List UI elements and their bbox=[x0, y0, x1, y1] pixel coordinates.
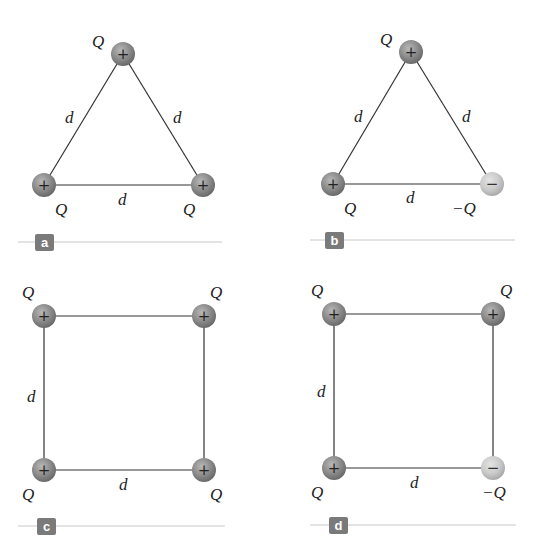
side-left bbox=[333, 52, 411, 184]
charge-label: Q bbox=[22, 485, 34, 504]
positive-charge: + bbox=[399, 40, 423, 64]
positive-charge: + bbox=[192, 458, 216, 482]
charge-label: Q bbox=[380, 30, 392, 49]
charge-label: Q bbox=[183, 200, 195, 219]
charge-label: Q bbox=[311, 483, 323, 502]
charge-label: Q bbox=[22, 283, 34, 302]
charge-label: −Q bbox=[482, 483, 506, 502]
side-length-label: d bbox=[119, 475, 128, 494]
positive-charge: + bbox=[322, 456, 346, 480]
positive-charge: + bbox=[111, 42, 135, 66]
plus-icon: + bbox=[405, 43, 418, 61]
positive-charge: + bbox=[192, 304, 216, 328]
side-length-label: d bbox=[173, 108, 182, 127]
positive-charge: + bbox=[322, 302, 346, 326]
panel-c: + + + + Q Q Q Q d d c bbox=[18, 283, 225, 535]
plus-icon: + bbox=[38, 307, 51, 325]
side-length-label: d bbox=[65, 108, 74, 127]
side-right bbox=[123, 54, 203, 185]
charge-label: Q bbox=[311, 281, 323, 300]
plus-icon: + bbox=[328, 305, 341, 323]
charge-label: Q bbox=[92, 32, 104, 51]
negative-charge: − bbox=[481, 456, 505, 480]
positive-charge: + bbox=[481, 302, 505, 326]
plus-icon: + bbox=[117, 45, 130, 63]
plus-icon: + bbox=[38, 176, 51, 194]
panel-b: + + − Q Q −Q d d d b bbox=[310, 30, 515, 249]
negative-charge: − bbox=[480, 172, 504, 196]
minus-icon: − bbox=[487, 459, 500, 477]
charge-label: −Q bbox=[452, 199, 476, 218]
panel-tag-label: c bbox=[43, 519, 50, 534]
minus-icon: − bbox=[486, 175, 499, 193]
charge-configurations-diagram: + + + Q Q Q d d d a + + bbox=[0, 0, 537, 552]
panel-d: + + + − Q Q Q −Q d d d bbox=[310, 281, 516, 534]
side-left bbox=[44, 54, 123, 185]
side-length-label: d bbox=[406, 188, 415, 207]
charge-label: Q bbox=[344, 199, 356, 218]
plus-icon: + bbox=[198, 461, 211, 479]
side-length-label: d bbox=[354, 107, 363, 126]
side-length-label: d bbox=[118, 190, 127, 209]
charge-label: Q bbox=[500, 281, 512, 300]
plus-icon: + bbox=[38, 461, 51, 479]
positive-charge: + bbox=[32, 304, 56, 328]
plus-icon: + bbox=[197, 176, 210, 194]
side-right bbox=[411, 52, 492, 184]
panel-tag-label: d bbox=[335, 518, 343, 533]
positive-charge: + bbox=[32, 173, 56, 197]
side-length-label: d bbox=[317, 382, 326, 401]
positive-charge: + bbox=[321, 172, 345, 196]
plus-icon: + bbox=[327, 175, 340, 193]
side-length-label: d bbox=[410, 473, 419, 492]
charge-label: Q bbox=[55, 200, 67, 219]
panel-a: + + + Q Q Q d d d a bbox=[18, 32, 222, 251]
panel-tag-label: b bbox=[331, 233, 339, 248]
positive-charge: + bbox=[191, 173, 215, 197]
side-length-label: d bbox=[462, 107, 471, 126]
positive-charge: + bbox=[32, 458, 56, 482]
charge-label: Q bbox=[210, 283, 222, 302]
plus-icon: + bbox=[487, 305, 500, 323]
plus-icon: + bbox=[198, 307, 211, 325]
panel-tag-label: a bbox=[41, 235, 49, 250]
side-length-label: d bbox=[27, 387, 36, 406]
charge-label: Q bbox=[210, 485, 222, 504]
plus-icon: + bbox=[328, 459, 341, 477]
